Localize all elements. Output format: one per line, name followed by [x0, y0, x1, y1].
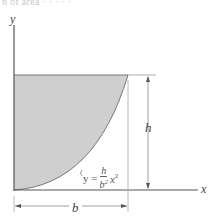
- y-axis-label: y: [10, 12, 15, 27]
- caption-fragment: n of area · · · · ·: [2, 0, 72, 7]
- area-diagram: n of area · · · · · y x h b y = h b2 x2: [0, 0, 216, 223]
- height-label: h: [145, 120, 152, 136]
- equation-numerator: h: [100, 166, 107, 177]
- equation-variable-exp: 2: [115, 172, 119, 180]
- equation-denominator-exp: 2: [104, 178, 108, 186]
- h-arrow-bottom: [146, 183, 150, 189]
- h-arrow-top: [146, 76, 150, 82]
- equation-lhs: y =: [83, 172, 97, 184]
- x-axis-label: x: [201, 182, 206, 197]
- curve-equation: y = h b2 x2: [83, 166, 118, 190]
- equation-fraction: h b2: [99, 166, 108, 190]
- b-arrow-right: [121, 204, 127, 208]
- equation-variable-wrap: x2: [110, 172, 118, 185]
- equation-leader: [81, 170, 83, 176]
- width-label: b: [69, 200, 82, 216]
- equation-denominator-wrap: b2: [99, 177, 108, 190]
- b-arrow-left: [15, 204, 21, 208]
